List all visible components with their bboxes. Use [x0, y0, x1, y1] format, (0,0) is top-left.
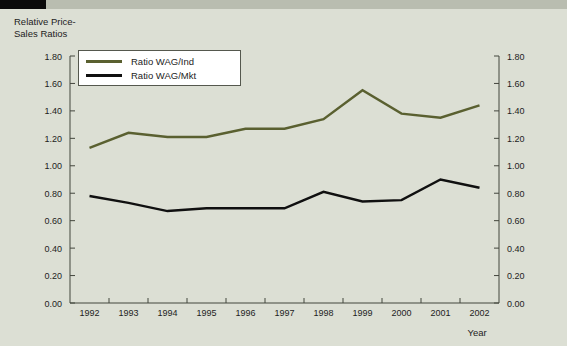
svg-text:0.40: 0.40: [44, 244, 62, 254]
svg-text:1.40: 1.40: [507, 106, 525, 116]
svg-text:0.80: 0.80: [507, 189, 525, 199]
svg-text:1996: 1996: [235, 308, 255, 318]
svg-text:2002: 2002: [469, 308, 489, 318]
chart-legend: Ratio WAG/Ind Ratio WAG/Mkt: [78, 50, 241, 86]
svg-text:1997: 1997: [274, 308, 294, 318]
y-axis-ticks-right: [494, 56, 499, 303]
legend-label-mkt: Ratio WAG/Mkt: [131, 70, 196, 81]
legend-swatch-mkt: [86, 74, 122, 77]
x-axis-title: Year: [468, 327, 487, 338]
y-axis-tick-labels-left: 0.000.200.400.600.801.001.201.401.601.80: [44, 52, 62, 309]
svg-text:1.40: 1.40: [44, 106, 62, 116]
svg-text:1.60: 1.60: [507, 79, 525, 89]
svg-text:1998: 1998: [313, 308, 333, 318]
svg-text:1994: 1994: [157, 308, 177, 318]
axis-lines: [70, 56, 499, 303]
svg-text:1999: 1999: [352, 308, 372, 318]
svg-text:0.40: 0.40: [507, 244, 525, 254]
x-axis-ticks: [109, 298, 460, 303]
svg-text:1.00: 1.00: [507, 161, 525, 171]
x-axis-tick-labels: 1992199319941995199619971998199920002001…: [79, 308, 489, 318]
svg-text:1993: 1993: [118, 308, 138, 318]
svg-text:1.60: 1.60: [44, 79, 62, 89]
svg-text:1995: 1995: [196, 308, 216, 318]
y-axis-tick-labels-right: 0.000.200.400.600.801.001.201.401.601.80: [507, 52, 525, 309]
svg-text:0.00: 0.00: [44, 299, 62, 309]
data-series-lines: [90, 90, 480, 211]
svg-text:0.60: 0.60: [507, 216, 525, 226]
legend-item: Ratio WAG/Mkt: [79, 68, 240, 82]
svg-text:1.00: 1.00: [44, 161, 62, 171]
svg-text:0.00: 0.00: [507, 299, 525, 309]
legend-item: Ratio WAG/Ind: [79, 54, 240, 68]
chart-page: Relative Price- Sales Ratios 0.000.200.4…: [0, 0, 567, 363]
svg-text:1.80: 1.80: [44, 52, 62, 62]
svg-text:1.80: 1.80: [507, 52, 525, 62]
legend-swatch-ind: [86, 60, 122, 63]
svg-text:1.20: 1.20: [507, 134, 525, 144]
y-axis-ticks-left: [70, 56, 75, 303]
svg-text:0.60: 0.60: [44, 216, 62, 226]
svg-text:0.20: 0.20: [507, 271, 525, 281]
svg-text:0.20: 0.20: [44, 271, 62, 281]
svg-text:1.20: 1.20: [44, 134, 62, 144]
legend-label-ind: Ratio WAG/Ind: [131, 56, 194, 67]
svg-text:0.80: 0.80: [44, 189, 62, 199]
svg-text:1992: 1992: [79, 308, 99, 318]
svg-text:2000: 2000: [391, 308, 411, 318]
svg-text:2001: 2001: [430, 308, 450, 318]
